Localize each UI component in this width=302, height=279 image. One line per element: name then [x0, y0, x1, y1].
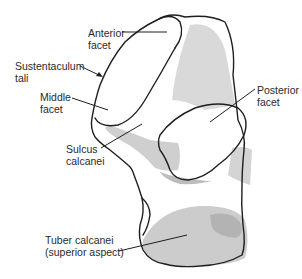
shading: [105, 24, 252, 266]
leader-middle-facet: [72, 98, 108, 110]
label-middle-facet: Middle facet: [40, 91, 71, 115]
label-sulcus-calcanei: Sulcus calcanei: [66, 143, 105, 167]
label-anterior-facet: Anterior facet: [88, 27, 125, 51]
label-posterior-facet: Posterior facet: [257, 84, 299, 108]
label-tuber-calcanei: Tuber calcanei (superior aspect): [45, 234, 124, 258]
label-sustentaculum-tali: Sustentaculum tali: [15, 60, 84, 84]
